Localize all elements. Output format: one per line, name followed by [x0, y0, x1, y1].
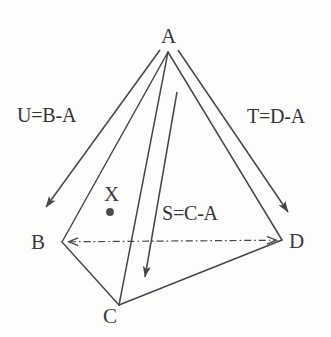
figure-canvas — [0, 0, 331, 337]
vertex-label-b: B — [31, 232, 45, 253]
vector-s-arrow — [145, 92, 177, 277]
tetrahedron-figure: A B C D X U=B-A T=D-A S=C-A — [0, 0, 331, 337]
vector-label-s: S=C-A — [162, 203, 218, 223]
point-x-marker — [106, 208, 114, 216]
vertex-label-a: A — [161, 26, 176, 47]
vertex-label-d: D — [289, 231, 304, 252]
vector-label-t: T=D-A — [247, 106, 305, 126]
vertex-label-c: C — [103, 306, 117, 327]
vector-t-arrow — [178, 50, 288, 212]
edge-bc — [62, 242, 119, 305]
point-label-x: X — [104, 184, 119, 205]
edge-bd-hidden — [69, 240, 276, 242]
edge-cd — [119, 240, 282, 305]
edge-ac — [119, 52, 168, 305]
edge-ab — [62, 52, 168, 242]
vector-label-u: U=B-A — [17, 105, 76, 125]
